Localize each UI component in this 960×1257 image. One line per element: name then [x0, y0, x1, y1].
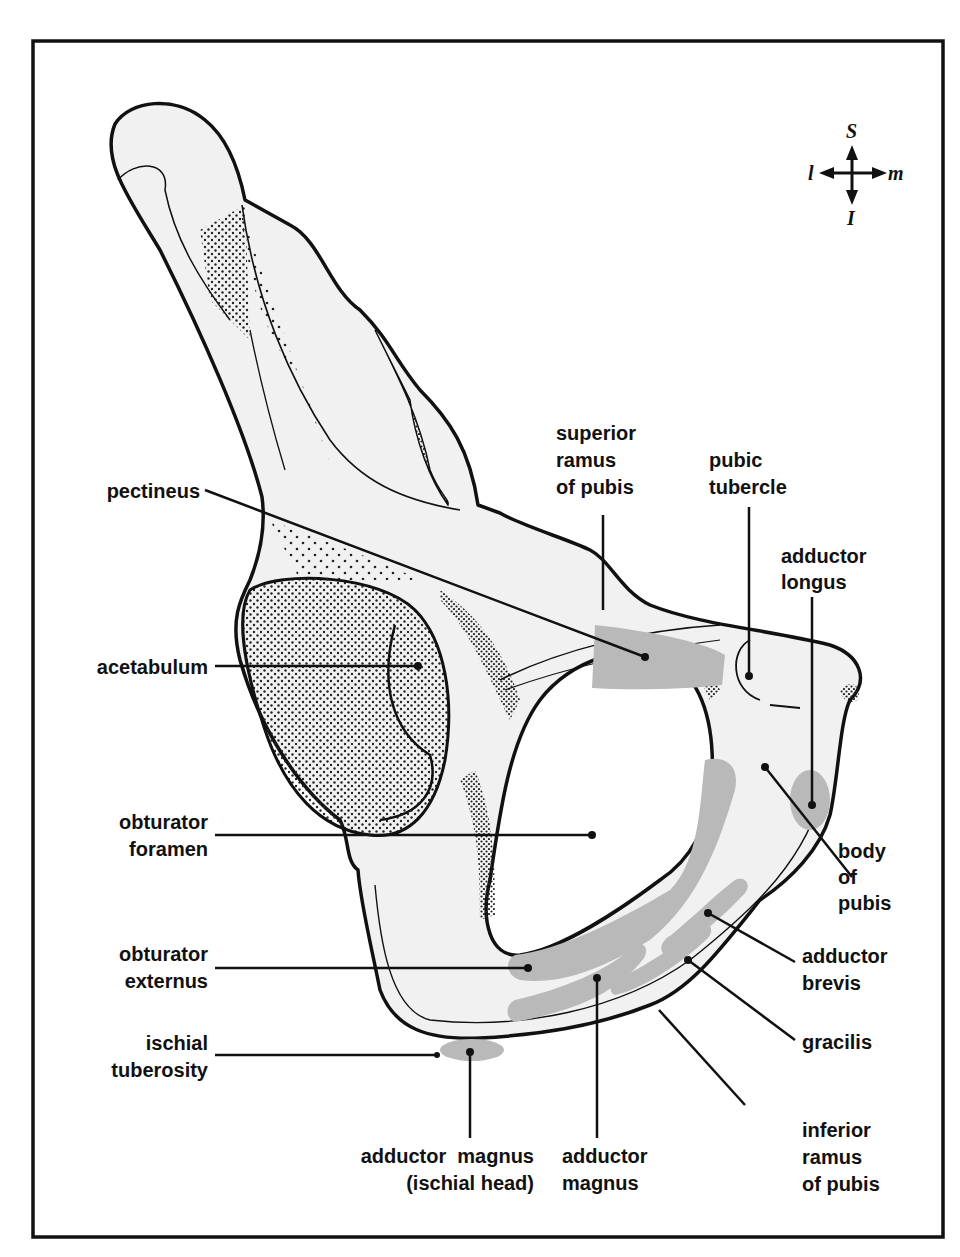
label-adductor-brevis-1: adductor	[802, 945, 888, 967]
label-superior-ramus-3: of pubis	[556, 476, 634, 498]
anatomy-figure: S I l m pectineus acetabulum obturator f…	[0, 0, 960, 1257]
label-adductor-longus-2: longus	[781, 571, 847, 593]
label-gracilis: gracilis	[802, 1031, 872, 1053]
label-adductor-longus-1: adductor	[781, 545, 867, 567]
label-adductor-brevis-2: brevis	[802, 972, 861, 994]
label-obturator-foramen-2: foramen	[129, 838, 208, 860]
label-acetabulum: acetabulum	[97, 656, 208, 678]
label-superior-ramus-1: superior	[556, 422, 636, 444]
label-inferior-ramus-2: ramus	[802, 1146, 862, 1168]
label-obturator-foramen-1: obturator	[119, 811, 208, 833]
label-pubic-tubercle-2: tubercle	[709, 476, 787, 498]
label-adductor-magnus-1: adductor	[562, 1145, 648, 1167]
label-pubic-tubercle-1: pubic	[709, 449, 762, 471]
label-inferior-ramus-3: of pubis	[802, 1173, 880, 1195]
label-ischial-tuberosity-1: ischial	[146, 1032, 208, 1054]
label-adductor-magnus-ischial-1: adductor magnus	[361, 1145, 534, 1167]
label-inferior-ramus-1: inferior	[802, 1119, 871, 1141]
label-adductor-magnus-ischial-2: (ischial head)	[406, 1172, 534, 1194]
label-body-of-pubis-3: pubis	[838, 892, 891, 914]
label-obturator-externus-1: obturator	[119, 943, 208, 965]
compass-inferior: I	[846, 207, 856, 229]
compass-superior: S	[846, 120, 857, 142]
compass-lateral: l	[808, 162, 814, 184]
hip-bone-diagram: S I l m pectineus acetabulum obturator f…	[0, 0, 960, 1257]
label-body-of-pubis-1: body	[838, 840, 887, 862]
label-ischial-tuberosity-2: tuberosity	[111, 1059, 209, 1081]
label-obturator-externus-2: externus	[125, 970, 208, 992]
compass-medial: m	[888, 162, 904, 184]
adductor-longus-attachment	[790, 770, 830, 830]
label-adductor-magnus-2: magnus	[562, 1172, 639, 1194]
label-superior-ramus-2: ramus	[556, 449, 616, 471]
label-body-of-pubis-2: of	[838, 866, 857, 888]
label-pectineus: pectineus	[107, 480, 200, 502]
